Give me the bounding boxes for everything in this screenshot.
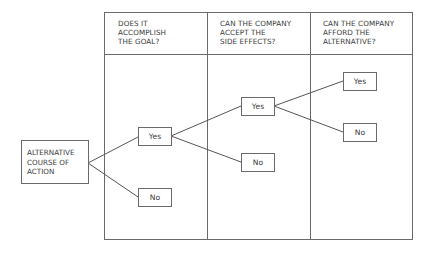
side-effects-yes-box: Yes (241, 97, 275, 116)
edge-side-yes-afford-yes (274, 81, 343, 106)
side-effects-no-box: No (241, 153, 275, 172)
goal-no-label: No (150, 193, 160, 202)
afford-no-box: No (343, 123, 377, 142)
edge-goal-yes-side-yes (171, 106, 241, 136)
edge-goal-yes-side-no (171, 136, 241, 162)
side-effects-yes-label: Yes (252, 102, 264, 111)
edge-side-yes-afford-no (274, 106, 343, 132)
edge-root-goal-no (88, 163, 138, 197)
edge-root-goal-yes (88, 137, 138, 163)
goal-yes-label: Yes (149, 132, 161, 141)
afford-yes-box: Yes (343, 72, 377, 91)
goal-yes-box: Yes (138, 127, 172, 146)
goal-no-box: No (138, 188, 172, 207)
alternative-course-of-action-box: ALTERNATIVE COURSE OF ACTION (21, 140, 89, 184)
afford-no-label: No (355, 128, 365, 137)
side-effects-no-label: No (253, 158, 263, 167)
afford-yes-label: Yes (354, 77, 366, 86)
